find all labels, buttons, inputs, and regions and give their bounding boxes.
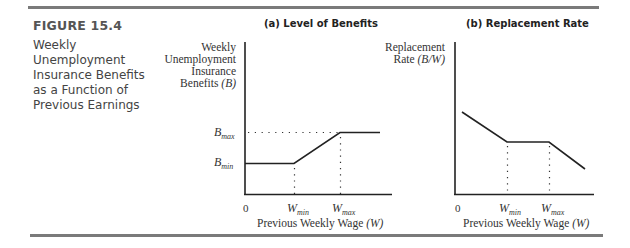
- bmax-tick-label: Bmax: [214, 125, 235, 141]
- wmin-tick-label: Wmin: [287, 201, 309, 217]
- charts-canvas: Bmax Bmin 0 Wmin Wmax Previous Weekly Wa…: [0, 0, 630, 248]
- panel-a-plot: Bmax Bmin 0 Wmin Wmax Previous Weekly Wa…: [214, 42, 392, 230]
- wmin-tick-label: Wmin: [499, 201, 521, 217]
- zero-tick-label: 0: [243, 202, 249, 214]
- panel-a-x-axis-label: Previous Weekly Wage (W): [257, 217, 384, 230]
- zero-tick-label: 0: [455, 202, 461, 214]
- replacement-rate-line: [462, 112, 585, 169]
- benefits-line: [245, 133, 380, 164]
- bmin-tick-label: Bmin: [214, 155, 233, 171]
- wmax-tick-label: Wmax: [332, 201, 356, 217]
- panel-b-plot: 0 Wmin Wmax Previous Weekly Wage (W): [454, 42, 594, 230]
- wmax-tick-label: Wmax: [541, 201, 565, 217]
- bottom-rule: [30, 234, 603, 237]
- panel-b-x-axis-label: Previous Weekly Wage (W): [463, 217, 590, 230]
